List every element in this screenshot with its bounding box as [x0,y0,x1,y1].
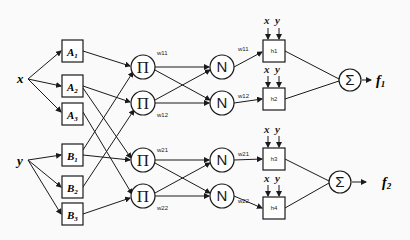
input-y-label: y [15,153,23,168]
anfis-network-diagram: x y A1 A2 A3 B1 B2 B3 Π Π Π Π w11 w12 [0,0,410,240]
h2-input-x: x [263,63,270,75]
h3-input-x: x [263,123,270,135]
n-symbol: N [217,187,228,204]
h3-input-y: y [273,123,280,135]
norm-weight-w11: w11 [237,46,249,52]
output-f1: f1 [376,73,385,89]
h2-input-y: y [273,63,280,75]
input-x-label: x [16,71,24,86]
n-symbol: N [217,58,228,75]
h2-label: h2 [271,96,278,102]
norm-weight-w22: w22 [237,198,250,204]
membership-node-b3: B3 [62,203,83,225]
membership-node-b1: B1 [62,144,83,166]
sigma-symbol: Σ [335,173,344,190]
h1-input-y: y [273,14,280,26]
pi-symbol: Π [137,151,149,170]
membership-node-a3: A3 [62,103,83,125]
output-f2: f2 [382,175,392,191]
weight-label-w22: w22 [156,205,169,211]
weight-label-w11: w11 [156,50,168,56]
n-symbol: N [217,151,228,168]
weight-label-w12: w12 [156,112,169,118]
h4-input-y: y [273,172,280,184]
membership-node-a2: A2 [62,75,83,97]
membership-node-a1: A1 [62,40,83,62]
h3-label: h3 [271,156,278,162]
pi-symbol: Π [137,58,149,77]
norm-weight-w21: w21 [237,151,250,157]
h1-label: h1 [271,48,278,54]
weight-label-w21: w21 [156,147,169,153]
pi-symbol: Π [137,187,149,206]
h4-input-x: x [263,172,270,184]
n-symbol: N [217,94,228,111]
h1-input-x: x [263,14,270,26]
sigma-symbol: Σ [345,71,354,88]
h4-label: h4 [271,205,278,211]
norm-weight-w12: w12 [237,93,250,99]
membership-node-b2: B2 [62,176,83,198]
pi-symbol: Π [137,94,149,113]
